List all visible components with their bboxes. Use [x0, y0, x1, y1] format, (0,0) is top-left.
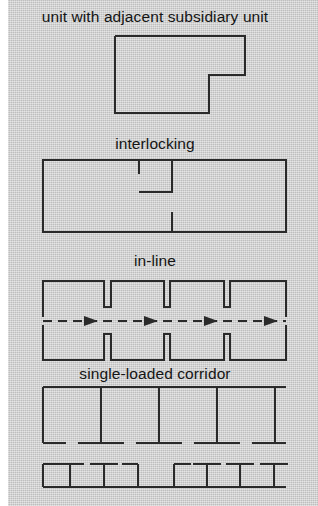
figure-single-loaded-corridor [8, 0, 318, 506]
diagram-page: unit with adjacent subsidiary unit inter… [0, 0, 318, 506]
